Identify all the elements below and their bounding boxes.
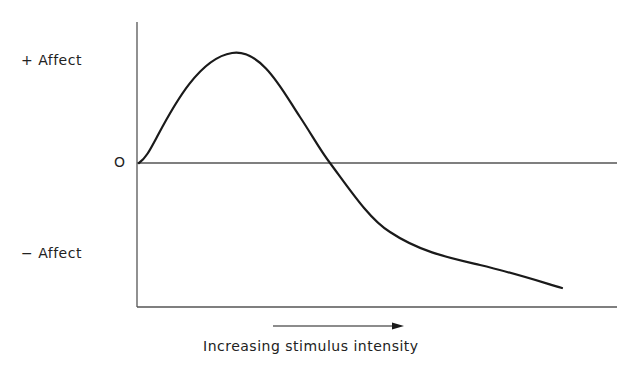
negative-affect-label: − Affect [21,245,82,261]
arrow-head-icon [392,323,404,330]
affect-diagram [0,0,640,376]
affect-curve [139,53,562,288]
x-axis-label: Increasing stimulus intensity [203,338,419,354]
zero-label: O [114,154,126,170]
positive-affect-label: + Affect [21,52,82,68]
